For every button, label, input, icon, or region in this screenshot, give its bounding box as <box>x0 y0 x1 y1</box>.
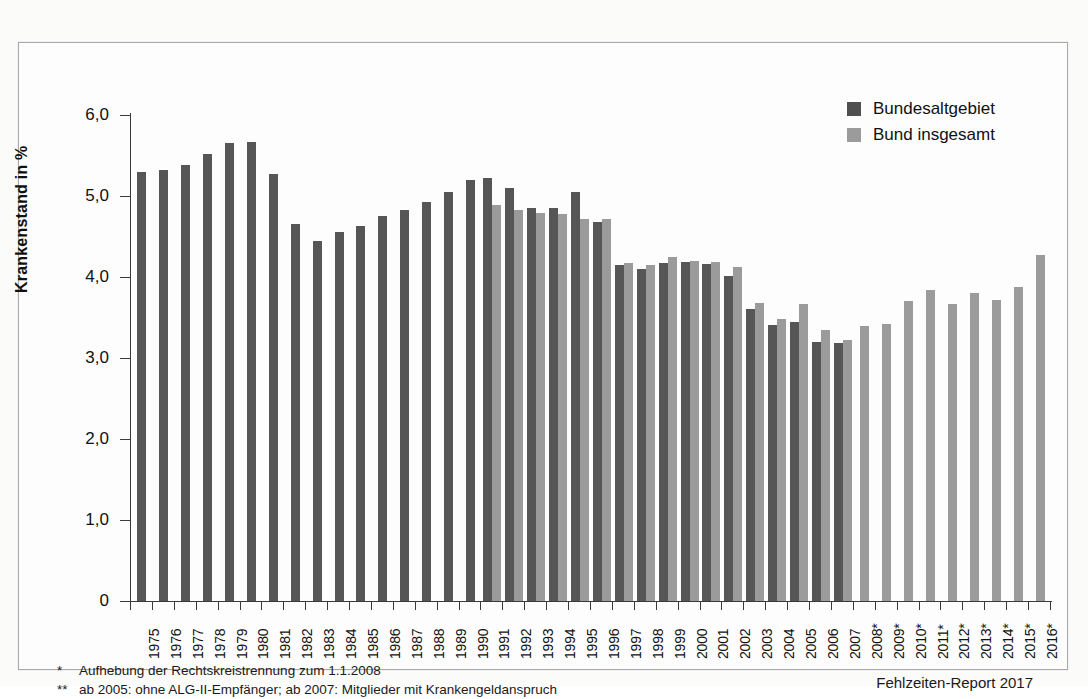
bar-bundesaltgebiet <box>203 154 212 601</box>
footnotes: *Aufhebung der Rechtskreistrennung zum 1… <box>57 661 557 699</box>
x-tick-label: 1977 <box>191 629 205 659</box>
bar-group <box>876 324 898 601</box>
bar-bund-insgesamt <box>843 340 852 601</box>
x-tick <box>831 601 832 610</box>
x-tick-label: 1994 <box>563 629 577 659</box>
x-tick-label: 1983 <box>322 629 336 659</box>
bar-bund-insgesamt <box>1036 255 1045 601</box>
bar-bundesaltgebiet <box>483 178 492 601</box>
plot-area <box>131 115 1051 601</box>
bar-group <box>679 261 701 601</box>
legend: BundesaltgebietBund insgesamt <box>847 99 995 151</box>
bar-bundesaltgebiet <box>313 241 322 601</box>
bar-group <box>898 301 920 602</box>
bar-bundesaltgebiet <box>702 264 711 601</box>
x-tick-label: 2007 <box>848 629 862 659</box>
bar-bund-insgesamt <box>821 330 830 601</box>
bar-group <box>525 208 547 601</box>
y-tick <box>120 358 131 359</box>
source-label: Fehlzeiten-Report 2017 <box>876 674 1033 691</box>
legend-swatch-icon <box>847 128 861 142</box>
x-tick-label: 2013* <box>979 623 993 659</box>
bar-bundesaltgebiet <box>422 202 431 601</box>
bar-bund-insgesamt <box>992 300 1001 601</box>
bar-bund-insgesamt <box>646 265 655 601</box>
y-tick <box>120 439 131 440</box>
footnote-marker: ** <box>57 680 79 699</box>
bar-bund-insgesamt <box>882 324 891 601</box>
bar-bund-insgesamt <box>668 257 677 601</box>
legend-swatch-icon <box>847 102 861 116</box>
x-tick-label: 2012* <box>957 623 971 659</box>
bar-group <box>175 165 197 601</box>
x-tick-label: 2002 <box>738 629 752 659</box>
x-tick-label: 2014* <box>1001 623 1015 659</box>
x-tick <box>853 601 854 610</box>
bar-group <box>1029 255 1051 601</box>
x-tick-label: 2016* <box>1045 623 1059 659</box>
bar-bund-insgesamt <box>514 210 523 601</box>
x-axis-ticks <box>130 601 1052 610</box>
x-tick <box>371 601 372 610</box>
bar-bund-insgesamt <box>733 267 742 601</box>
x-tick <box>897 601 898 610</box>
bar-bund-insgesamt <box>558 214 567 601</box>
x-tick <box>700 601 701 610</box>
x-tick <box>152 601 153 610</box>
x-tick-label: 1991 <box>497 629 511 659</box>
bar-group <box>306 241 328 601</box>
bar-bundesaltgebiet <box>335 232 344 601</box>
y-tick-label: 0 <box>63 592 109 609</box>
y-tick-label: 5,0 <box>63 187 109 204</box>
bar-bundesaltgebiet <box>549 208 558 601</box>
bar-bund-insgesamt <box>624 263 633 601</box>
x-tick <box>283 601 284 610</box>
bar-group <box>810 330 832 601</box>
bar-bundesaltgebiet <box>615 265 624 601</box>
legend-item-label: Bundesaltgebiet <box>873 99 995 119</box>
x-tick <box>590 601 591 610</box>
x-tick <box>349 601 350 610</box>
bar-group <box>394 210 416 601</box>
x-tick-label: 1997 <box>629 629 643 659</box>
bar-bund-insgesamt <box>711 262 720 601</box>
x-tick-label: 1988 <box>432 629 446 659</box>
y-tick-label: 2,0 <box>63 430 109 447</box>
x-tick-label: 2008* <box>870 623 884 659</box>
x-tick <box>919 601 920 610</box>
legend-item-label: Bund insgesamt <box>873 125 995 145</box>
bar-bund-insgesamt <box>860 326 869 601</box>
x-tick <box>218 601 219 610</box>
bar-bund-insgesamt <box>690 261 699 601</box>
x-tick <box>1050 601 1051 610</box>
x-tick <box>612 601 613 610</box>
x-tick <box>1006 601 1007 610</box>
x-tick <box>130 601 131 610</box>
y-tick <box>120 277 131 278</box>
x-tick <box>415 601 416 610</box>
x-tick <box>721 601 722 610</box>
bar-group <box>197 154 219 601</box>
bar-bundesaltgebiet <box>593 222 602 601</box>
bar-group <box>569 192 591 601</box>
x-tick <box>875 601 876 610</box>
bar-bund-insgesamt <box>970 293 979 601</box>
bar-group <box>635 265 657 601</box>
bar-bundesaltgebiet <box>444 192 453 601</box>
bar-group <box>920 290 942 601</box>
bar-group <box>219 143 241 601</box>
bar-group <box>854 326 876 601</box>
x-tick <box>787 601 788 610</box>
bar-group <box>481 178 503 601</box>
bar-group <box>701 262 723 601</box>
x-tick <box>393 601 394 610</box>
x-tick-label: 1976 <box>169 629 183 659</box>
bar-group <box>744 303 766 601</box>
x-tick <box>809 601 810 610</box>
bar-bundesaltgebiet <box>181 165 190 601</box>
x-tick-label: 1975 <box>147 629 161 659</box>
x-tick-label: 1980 <box>256 629 270 659</box>
x-tick-label: 2011* <box>936 624 950 659</box>
bar-bundesaltgebiet <box>247 142 256 601</box>
bar-group <box>613 263 635 601</box>
